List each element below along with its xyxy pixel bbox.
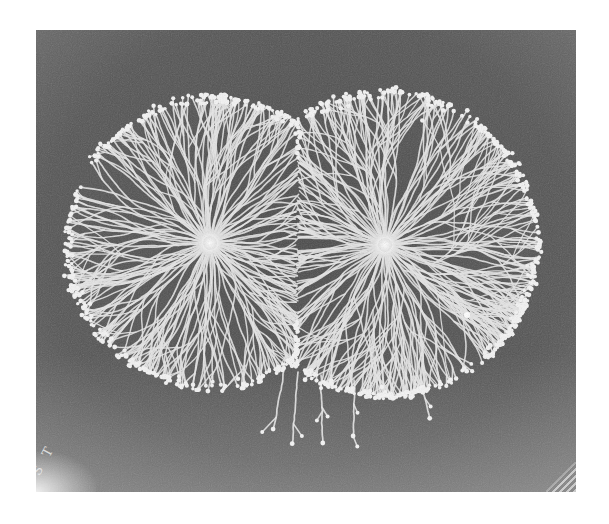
page: S T (0, 0, 609, 524)
corner-scratch-marks (546, 462, 576, 492)
colony-photograph: S T (36, 30, 576, 492)
bottom-light-fade (36, 30, 576, 492)
agar-plate-image (36, 30, 576, 492)
